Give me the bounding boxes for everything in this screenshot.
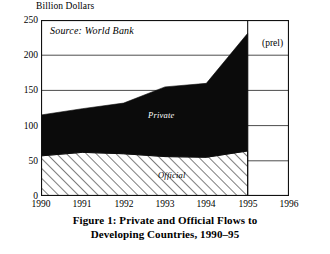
x-tick-1995: 1995 — [225, 198, 271, 210]
y-tick-150: 150 — [2, 85, 38, 95]
figure-caption: Figure 1: Private and Official Flows to … — [0, 213, 330, 241]
x-tick-1993: 1993 — [142, 198, 188, 210]
x-tick-1990: 1990 — [18, 198, 64, 210]
series-label-private: Private — [148, 110, 174, 120]
y-tick-50: 50 — [2, 156, 38, 166]
x-tick-1991: 1991 — [59, 198, 105, 210]
caption-line-1: Figure 1: Private and Official Flows to — [73, 214, 258, 226]
y-tick-100: 100 — [2, 121, 38, 131]
figure-container: Billion Dollars — [0, 0, 330, 254]
series-label-official: Official — [158, 170, 186, 180]
caption-line-2: Developing Countries, 1990–95 — [0, 227, 330, 241]
source-note: Source: World Bank — [50, 25, 134, 37]
x-tick-1992: 1992 — [101, 198, 147, 210]
x-axis-ticks: 1990 1991 1992 1993 1994 1995 1996 — [0, 198, 330, 214]
y-tick-250: 250 — [2, 15, 38, 25]
x-tick-1994: 1994 — [183, 198, 229, 210]
area-official — [41, 151, 248, 196]
preliminary-label: (prel) — [262, 38, 283, 49]
plot-area: Private Official — [41, 20, 289, 196]
x-tick-1996: 1996 — [266, 198, 312, 210]
y-tick-200: 200 — [2, 50, 38, 60]
y-axis-unit-label: Billion Dollars — [36, 1, 94, 12]
